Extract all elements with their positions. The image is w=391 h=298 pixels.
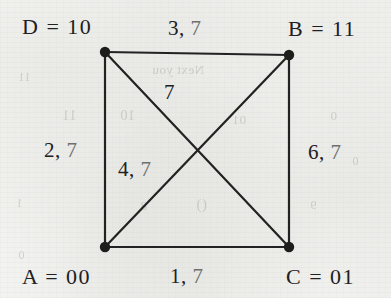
vertex-label-C: C = 01 (286, 266, 355, 288)
edge-label-B-C-secondary: 7 (331, 140, 342, 164)
vertex-dot-D (100, 47, 110, 57)
edge-label-A-B: 4, 7 (118, 159, 152, 180)
edge-label-D-B: 3, 7 (168, 18, 202, 39)
edge-label-A-C: 1, 7 (170, 266, 204, 287)
scanned-figure: Next you11100101110()890 D = 10 B = 11 A… (0, 0, 391, 298)
edge-label-A-C-secondary: 7 (193, 264, 204, 288)
edge-label-D-B-secondary: 7 (191, 16, 202, 40)
edge-label-D-A-primary: 2, (44, 138, 61, 162)
vertex-dot-B (284, 50, 294, 60)
edge-label-A-B-secondary: 7 (141, 157, 152, 181)
edge-label-A-B-primary: 4, (118, 157, 135, 181)
vertex-dot-C (284, 242, 294, 252)
edge-label-B-C: 6, 7 (308, 142, 342, 163)
vertex-label-B: B = 11 (288, 18, 356, 40)
edge-label-D-B-primary: 3, (168, 16, 185, 40)
edge-line-D-B (105, 52, 289, 55)
edge-label-A-C-primary: 1, (170, 264, 187, 288)
vertex-label-A: A = 00 (22, 266, 91, 288)
edge-label-D-C: 7 (164, 82, 175, 103)
edge-label-B-C-primary: 6, (308, 140, 325, 164)
vertex-label-D: D = 10 (22, 16, 92, 38)
edge-label-D-A: 2, 7 (44, 140, 78, 161)
vertex-dot-A (100, 242, 110, 252)
edge-label-D-A-secondary: 7 (67, 138, 78, 162)
